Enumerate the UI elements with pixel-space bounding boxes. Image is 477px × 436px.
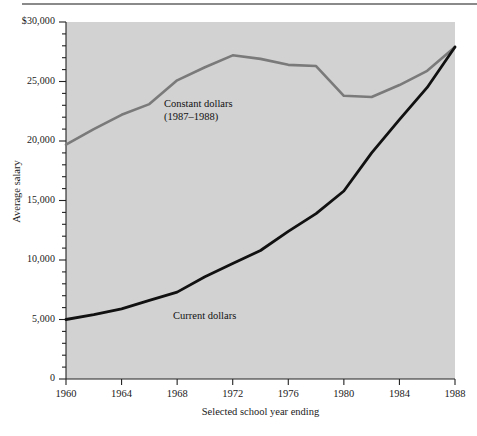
- x-tick-label: 1964: [92, 388, 152, 399]
- y-tick-label: 15,000: [0, 194, 55, 205]
- y-axis: [59, 22, 66, 379]
- x-tick-label: 1960: [36, 388, 96, 399]
- data-series-group: [66, 47, 455, 320]
- series-label-current-line1: Current dollars: [173, 310, 236, 323]
- y-tick-label: $30,000: [0, 15, 55, 26]
- x-axis-title: Selected school year ending: [66, 406, 455, 417]
- y-tick-label: 5,000: [0, 313, 55, 324]
- x-tick-label: 1972: [203, 388, 263, 399]
- y-tick-label: 10,000: [0, 253, 55, 264]
- series-label-constant-line2: (1987–1988): [164, 111, 233, 124]
- x-tick-label: 1968: [147, 388, 207, 399]
- series-label-constant-dollars: Constant dollars (1987–1988): [164, 98, 233, 123]
- y-tick-label: 20,000: [0, 134, 55, 145]
- x-tick-label: 1988: [425, 388, 477, 399]
- x-tick-label: 1980: [314, 388, 374, 399]
- x-axis: [66, 379, 455, 385]
- series-label-constant-line1: Constant dollars: [164, 98, 233, 111]
- x-tick-label: 1976: [258, 388, 318, 399]
- y-tick-label: 0: [0, 372, 55, 383]
- series-label-current-dollars: Current dollars: [173, 310, 236, 323]
- y-tick-label: 25,000: [0, 75, 55, 86]
- chart-figure: $30,00025,00020,00015,00010,0005,0000 19…: [0, 0, 477, 436]
- chart-svg: [0, 0, 477, 436]
- x-tick-label: 1984: [369, 388, 429, 399]
- y-axis-title: Average salary: [11, 132, 22, 252]
